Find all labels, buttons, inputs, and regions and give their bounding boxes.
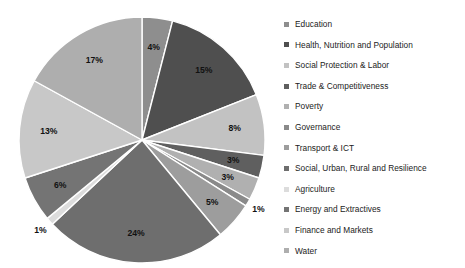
pie-slices-group [19,17,265,263]
legend-swatch-icon [284,166,289,171]
pie-slice-value-label: 15% [195,65,213,75]
pie-slice-value-label: 6% [54,180,67,190]
legend-swatch-icon [284,248,289,253]
legend-item[interactable]: Governance [283,117,465,138]
legend-item[interactable]: Poverty [283,96,465,117]
legend-swatch-icon [284,145,289,150]
legend-item-label: Education [295,14,332,35]
legend-swatch-icon [284,42,289,47]
legend-item[interactable]: Agriculture [283,179,465,200]
legend-swatch-icon [284,63,289,68]
legend-item[interactable]: Trade & Competitiveness [283,76,465,97]
legend-item-label: Finance and Markets [295,220,373,241]
pie-chart-figure: 4%15%8%3%3%1%5%24%1%6%13%17% EducationHe… [0,0,465,268]
legend-swatch-icon [284,22,289,27]
chart-legend: EducationHealth, Nutrition and Populatio… [283,14,465,264]
pie-slice-value-label: 4% [147,42,160,52]
legend-item[interactable]: Social Protection & Labor [283,55,465,76]
legend-item[interactable]: Transport & ICT [283,138,465,159]
pie-slice-value-label: 3% [227,155,240,165]
legend-item-label: Health, Nutrition and Population [295,35,413,56]
legend-swatch-icon [284,104,289,109]
legend-swatch-icon [284,207,289,212]
legend-item-label: Energy and Extractives [295,199,381,220]
pie-slice-value-label: 1% [34,225,47,235]
legend-swatch-icon [284,84,289,89]
pie-slice-value-label: 1% [252,204,265,214]
legend-item-label: Governance [295,117,340,138]
legend-item[interactable]: Social, Urban, Rural and Resilience [283,158,465,179]
pie-slice-value-label: 3% [222,172,235,182]
legend-swatch-icon [284,228,289,233]
legend-item-label: Poverty [295,96,323,117]
pie-slice-value-label: 5% [206,197,219,207]
legend-item-label: Social Protection & Labor [295,55,389,76]
legend-item-label: Trade & Competitiveness [295,76,388,97]
pie-slice-value-label: 24% [127,228,145,238]
pie-slice-value-label: 8% [228,123,241,133]
pie-plot-area: 4%15%8%3%3%1%5%24%1%6%13%17% [0,0,275,268]
legend-item-label: Agriculture [295,179,335,200]
legend-item-label: Social, Urban, Rural and Resilience [295,158,427,179]
pie-slice-value-label: 17% [86,55,104,65]
legend-item[interactable]: Finance and Markets [283,220,465,241]
legend-swatch-icon [284,187,289,192]
legend-item[interactable]: Energy and Extractives [283,199,465,220]
pie-slice-value-label: 13% [40,126,58,136]
legend-swatch-icon [284,125,289,130]
legend-item-label: Transport & ICT [295,138,354,159]
legend-item[interactable]: Health, Nutrition and Population [283,35,465,56]
legend-item[interactable]: Water [283,241,465,262]
pie-svg: 4%15%8%3%3%1%5%24%1%6%13%17% [0,0,275,268]
legend-item[interactable]: Education [283,14,465,35]
legend-item-label: Water [295,241,317,262]
